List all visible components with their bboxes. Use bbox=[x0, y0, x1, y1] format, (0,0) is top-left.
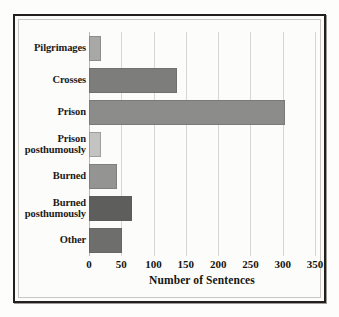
category-label-line: posthumously bbox=[6, 208, 86, 220]
category-label-line: Prison bbox=[6, 133, 86, 145]
bar bbox=[89, 132, 101, 157]
category-label: Pilgrimages bbox=[6, 42, 86, 54]
category-label: Prisonposthumously bbox=[6, 133, 86, 156]
plot-area bbox=[89, 32, 315, 256]
category-label: Prison bbox=[6, 106, 86, 118]
category-label-line: Crosses bbox=[6, 74, 86, 86]
category-label-line: Other bbox=[6, 234, 86, 246]
bar-row bbox=[89, 96, 315, 128]
bar bbox=[89, 68, 177, 93]
bar-row bbox=[89, 160, 315, 192]
bar bbox=[89, 100, 285, 125]
bar-row bbox=[89, 32, 315, 64]
bar-row bbox=[89, 192, 315, 224]
category-label: Burnedposthumously bbox=[6, 197, 86, 220]
bar-row bbox=[89, 224, 315, 256]
bar bbox=[89, 164, 117, 189]
bar bbox=[89, 196, 132, 221]
category-label-line: Pilgrimages bbox=[6, 42, 86, 54]
chart-figure: PilgrimagesCrossesPrisonPrisonposthumous… bbox=[0, 0, 339, 317]
category-label: Other bbox=[6, 234, 86, 246]
category-label-line: Burned bbox=[6, 170, 86, 182]
gridline-350 bbox=[315, 32, 316, 256]
category-label: Crosses bbox=[6, 74, 86, 86]
category-label-line: Prison bbox=[6, 106, 86, 118]
category-label-line: posthumously bbox=[6, 144, 86, 156]
x-axis-title: Number of Sentences bbox=[89, 274, 315, 286]
bar-row bbox=[89, 64, 315, 96]
bar bbox=[89, 228, 122, 253]
bar bbox=[89, 36, 101, 61]
bar-row bbox=[89, 128, 315, 160]
category-label-line: Burned bbox=[6, 197, 86, 209]
x-tick-label: 350 bbox=[295, 258, 335, 270]
category-label: Burned bbox=[6, 170, 86, 182]
